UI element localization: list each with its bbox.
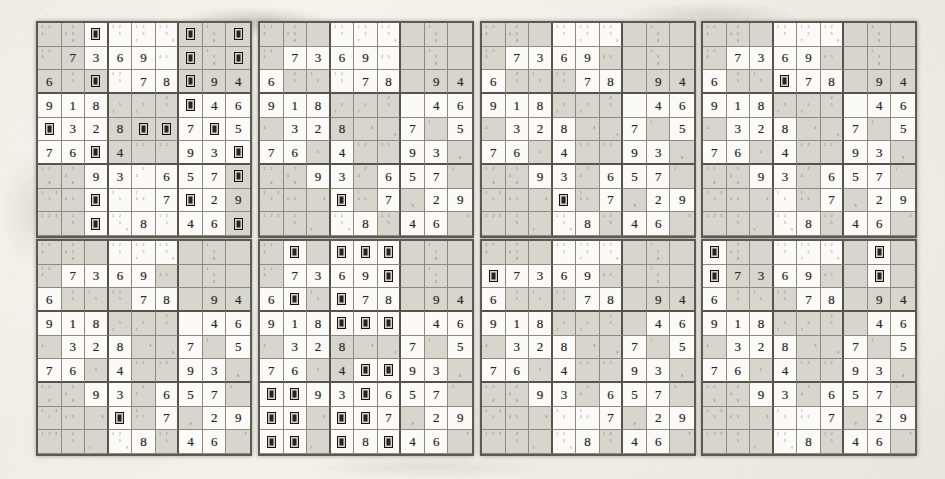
sudoku-cell[interactable]: 6: [506, 359, 530, 383]
sudoku-cell[interactable]: 4: [482, 336, 506, 360]
sudoku-cell[interactable]: 45: [62, 189, 86, 213]
sudoku-cell[interactable]: 3: [529, 265, 553, 289]
sudoku-cell[interactable]: [284, 407, 308, 431]
sudoku-cell[interactable]: 25: [378, 94, 402, 118]
sudoku-cell[interactable]: [891, 241, 915, 265]
sudoku-cell[interactable]: 7: [844, 118, 868, 142]
sudoku-cell[interactable]: 5: [529, 141, 553, 165]
sudoku-cell[interactable]: 25: [600, 94, 624, 118]
sudoku-cell[interactable]: 6: [797, 118, 821, 142]
sudoku-cell[interactable]: 1: [891, 383, 915, 407]
sudoku-cell[interactable]: 5: [623, 165, 647, 189]
sudoku-cell[interactable]: 25: [821, 312, 845, 336]
sudoku-cell[interactable]: [226, 141, 250, 165]
sudoku-cell[interactable]: 8: [354, 212, 378, 236]
sudoku-cell[interactable]: 124: [482, 23, 506, 47]
sudoku-cell[interactable]: 9: [797, 265, 821, 289]
sudoku-cell[interactable]: 124: [260, 265, 284, 289]
sudoku-cell[interactable]: 9: [260, 312, 284, 336]
sudoku-cell[interactable]: [85, 141, 109, 165]
sudoku-cell[interactable]: 135: [703, 189, 727, 213]
sudoku-cell[interactable]: 2: [307, 118, 331, 142]
sudoku-cell[interactable]: 123: [703, 430, 727, 454]
sudoku-cell[interactable]: 4: [647, 312, 671, 336]
sudoku-cell[interactable]: 8: [179, 407, 203, 431]
sudoku-cell[interactable]: [354, 383, 378, 407]
sudoku-cell[interactable]: 3: [62, 336, 86, 360]
sudoku-cell[interactable]: 7: [260, 359, 284, 383]
sudoku-cell[interactable]: 1257: [576, 23, 600, 47]
sudoku-cell[interactable]: [179, 70, 203, 94]
sudoku-cell[interactable]: [179, 312, 203, 336]
sudoku-cell[interactable]: 45: [821, 265, 845, 289]
sudoku-cell[interactable]: 7: [284, 265, 308, 289]
sudoku-cell[interactable]: 123: [703, 212, 727, 236]
sudoku-cell[interactable]: 124: [482, 47, 506, 71]
sudoku-cell[interactable]: 9: [703, 94, 727, 118]
sudoku-cell[interactable]: 7: [623, 336, 647, 360]
sudoku-cell[interactable]: [179, 23, 203, 47]
sudoku-cell[interactable]: 9: [821, 336, 845, 360]
sudoku-cell[interactable]: 6: [38, 288, 62, 312]
sudoku-cell[interactable]: 7: [401, 336, 425, 360]
sudoku-cell[interactable]: 3: [868, 141, 892, 165]
sudoku-cell[interactable]: 1: [727, 312, 751, 336]
sudoku-cell[interactable]: 7: [576, 70, 600, 94]
sudoku-cell[interactable]: 25: [727, 288, 751, 312]
sudoku-cell[interactable]: [844, 241, 868, 265]
sudoku-cell[interactable]: 6: [307, 189, 331, 213]
sudoku-cell[interactable]: 4: [891, 288, 915, 312]
sudoku-cell[interactable]: 3: [331, 383, 355, 407]
sudoku-cell[interactable]: 9: [750, 165, 774, 189]
sudoku-cell[interactable]: 1: [425, 336, 449, 360]
sudoku-cell[interactable]: 248: [506, 383, 530, 407]
sudoku-cell[interactable]: 145: [797, 407, 821, 431]
sudoku-cell[interactable]: 3: [85, 47, 109, 71]
sudoku-cell[interactable]: 9: [891, 189, 915, 213]
sudoku-cell[interactable]: 8: [378, 70, 402, 94]
sudoku-cell[interactable]: [284, 241, 308, 265]
sudoku-cell[interactable]: 1: [647, 336, 671, 360]
sudoku-cell[interactable]: 45: [156, 47, 180, 71]
sudoku-cell[interactable]: 3: [307, 47, 331, 71]
sudoku-cell[interactable]: 6: [448, 312, 472, 336]
sudoku-cell[interactable]: 12: [354, 141, 378, 165]
sudoku-cell[interactable]: 5: [179, 383, 203, 407]
sudoku-cell[interactable]: 7: [203, 165, 227, 189]
sudoku-cell[interactable]: 7: [62, 47, 86, 71]
sudoku-cell[interactable]: 45: [156, 265, 180, 289]
sudoku-cell[interactable]: 6: [506, 141, 530, 165]
sudoku-cell[interactable]: [448, 241, 472, 265]
sudoku-cell[interactable]: 5: [226, 118, 250, 142]
sudoku-cell[interactable]: 12: [378, 141, 402, 165]
sudoku-cell[interactable]: 3: [553, 165, 577, 189]
sudoku-cell[interactable]: 5: [844, 383, 868, 407]
sudoku-cell[interactable]: 248: [506, 165, 530, 189]
sudoku-cell[interactable]: [774, 70, 798, 94]
sudoku-cell[interactable]: 1259: [156, 23, 180, 47]
sudoku-cell[interactable]: 6: [109, 265, 133, 289]
sudoku-cell[interactable]: 4: [226, 70, 250, 94]
sudoku-cell[interactable]: 9: [703, 312, 727, 336]
sudoku-cell[interactable]: 128: [703, 165, 727, 189]
sudoku-cell[interactable]: 1: [425, 118, 449, 142]
sudoku-cell[interactable]: 7: [260, 141, 284, 165]
sudoku-cell[interactable]: 8: [529, 94, 553, 118]
sudoku-cell[interactable]: 1: [506, 94, 530, 118]
sudoku-cell[interactable]: [284, 430, 308, 454]
sudoku-cell[interactable]: [331, 407, 355, 431]
sudoku-cell[interactable]: 8: [378, 288, 402, 312]
sudoku-cell[interactable]: 57: [797, 312, 821, 336]
sudoku-cell[interactable]: 6: [448, 94, 472, 118]
sudoku-cell[interactable]: 248: [62, 165, 86, 189]
sudoku-cell[interactable]: 45: [600, 47, 624, 71]
sudoku-cell[interactable]: [401, 70, 425, 94]
sudoku-cell[interactable]: [670, 265, 694, 289]
sudoku-cell[interactable]: 158: [425, 265, 449, 289]
sudoku-cell[interactable]: 4: [260, 118, 284, 142]
sudoku-cell[interactable]: 124: [38, 47, 62, 71]
sudoku-cell[interactable]: 158: [203, 23, 227, 47]
sudoku-cell[interactable]: 158: [868, 23, 892, 47]
sudoku-cell[interactable]: 9: [425, 70, 449, 94]
sudoku-cell[interactable]: [307, 241, 331, 265]
